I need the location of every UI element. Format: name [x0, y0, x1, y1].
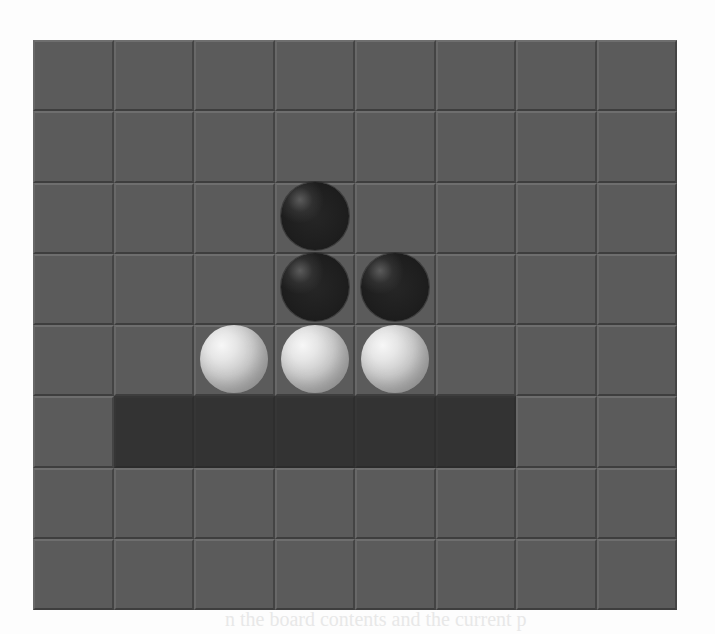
board-cell[interactable] [33, 40, 114, 111]
board-cell-legal-move[interactable] [355, 396, 436, 467]
board-cell[interactable] [355, 468, 436, 539]
board-cell-legal-move[interactable] [436, 396, 517, 467]
board-cell[interactable] [194, 111, 275, 182]
board-cell-legal-move[interactable] [114, 396, 195, 467]
board-cell[interactable] [355, 40, 436, 111]
board-cell[interactable] [516, 40, 597, 111]
board-cell[interactable] [355, 325, 436, 396]
board-cell[interactable] [33, 396, 114, 467]
board-cell[interactable] [436, 254, 517, 325]
board-cell[interactable] [275, 183, 356, 254]
board-cell[interactable] [194, 468, 275, 539]
board-cell[interactable] [194, 539, 275, 610]
board-cell[interactable] [275, 325, 356, 396]
board-cell[interactable] [194, 183, 275, 254]
board-cell[interactable] [114, 325, 195, 396]
board-cell[interactable] [597, 325, 678, 396]
board-cell[interactable] [516, 396, 597, 467]
board-cell[interactable] [275, 468, 356, 539]
board-cell[interactable] [516, 254, 597, 325]
black-piece [361, 253, 429, 321]
board-cell[interactable] [33, 111, 114, 182]
board-cell[interactable] [355, 183, 436, 254]
board-cell[interactable] [597, 111, 678, 182]
black-piece [281, 253, 349, 321]
board-cell[interactable] [33, 539, 114, 610]
white-piece [281, 325, 349, 393]
board-cell[interactable] [355, 111, 436, 182]
board-cell[interactable] [275, 254, 356, 325]
board-cell[interactable] [275, 40, 356, 111]
board-cell[interactable] [597, 539, 678, 610]
board-cell[interactable] [597, 396, 678, 467]
board-cell[interactable] [194, 40, 275, 111]
board-cell[interactable] [114, 111, 195, 182]
white-piece [361, 325, 429, 393]
white-piece [200, 325, 268, 393]
board-cell[interactable] [355, 539, 436, 610]
board-cell[interactable] [436, 111, 517, 182]
board-cell-legal-move[interactable] [194, 396, 275, 467]
board-cell[interactable] [194, 325, 275, 396]
board-cell[interactable] [597, 183, 678, 254]
board-cell[interactable] [194, 254, 275, 325]
board-cell[interactable] [33, 254, 114, 325]
game-board [33, 40, 677, 610]
board-cell[interactable] [275, 111, 356, 182]
board-cell[interactable] [436, 468, 517, 539]
black-piece [281, 182, 349, 250]
board-cell[interactable] [33, 183, 114, 254]
board-cell[interactable] [516, 111, 597, 182]
board-cell[interactable] [114, 183, 195, 254]
board-cell[interactable] [355, 254, 436, 325]
board-cell[interactable] [114, 40, 195, 111]
board-cell[interactable] [114, 468, 195, 539]
board-cell[interactable] [436, 183, 517, 254]
board-cell[interactable] [516, 468, 597, 539]
board-cell[interactable] [114, 254, 195, 325]
board-cell[interactable] [516, 325, 597, 396]
board-cell[interactable] [597, 254, 678, 325]
board-cell[interactable] [436, 539, 517, 610]
board-cell[interactable] [33, 468, 114, 539]
board-cell[interactable] [597, 40, 678, 111]
board-cell[interactable] [436, 40, 517, 111]
board-cell[interactable] [114, 539, 195, 610]
background-text: n the board contents and the current p [225, 608, 527, 631]
board-cell[interactable] [597, 468, 678, 539]
board-cell[interactable] [275, 539, 356, 610]
board-cell[interactable] [436, 325, 517, 396]
board-cell[interactable] [33, 325, 114, 396]
board-cell[interactable] [516, 539, 597, 610]
board-cell-legal-move[interactable] [275, 396, 356, 467]
board-cell[interactable] [516, 183, 597, 254]
page: n the board contents and the current p [0, 0, 715, 634]
